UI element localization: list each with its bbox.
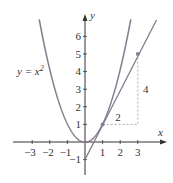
svg-text:3: 3 [135, 146, 141, 158]
svg-text:1: 1 [100, 146, 106, 158]
point-1-1 [101, 122, 105, 126]
y-tick-labels: −1 1 2 3 4 5 6 [69, 30, 81, 165]
svg-text:−3: −3 [24, 146, 36, 158]
svg-text:2: 2 [76, 101, 82, 113]
svg-text:−2: −2 [42, 146, 54, 158]
parabola-tangent-figure: −3 −2 −1 1 2 3 −1 1 2 3 4 5 6 x y y = x2… [0, 0, 173, 183]
svg-text:5: 5 [76, 48, 82, 60]
svg-text:3: 3 [76, 83, 82, 95]
x-axis-arrow-icon [160, 140, 167, 145]
rise-label: 4 [143, 83, 149, 95]
svg-text:1: 1 [76, 118, 82, 130]
point-3-5 [136, 52, 140, 56]
x-tick-labels: −3 −2 −1 1 2 3 [24, 146, 141, 158]
svg-text:4: 4 [76, 65, 82, 77]
curve-label: y = x2 [16, 64, 44, 77]
svg-text:2: 2 [117, 146, 123, 158]
run-label: 2 [115, 111, 121, 123]
svg-text:−1: −1 [69, 153, 81, 165]
y-axis-arrow-icon [83, 14, 88, 21]
svg-text:6: 6 [76, 30, 82, 42]
x-axis-label: x [157, 126, 163, 138]
y-axis-label: y [89, 9, 95, 21]
